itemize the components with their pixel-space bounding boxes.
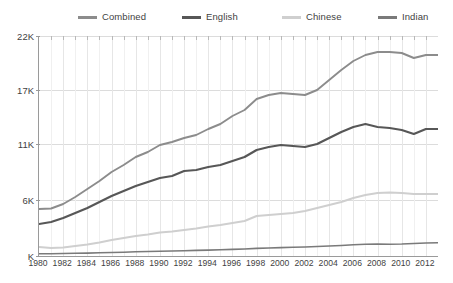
y-tick-mark: [36, 200, 40, 201]
legend-item-english[interactable]: English: [182, 9, 238, 25]
series-lines: [39, 36, 438, 256]
chart-legend: CombinedEnglishChineseIndian: [0, 9, 453, 25]
x-tick-label: 2000: [270, 258, 289, 268]
y-tick-label: 22K: [0, 31, 34, 42]
legend-item-indian[interactable]: Indian: [378, 9, 428, 25]
legend-label: Indian: [402, 9, 428, 25]
series-line-chinese: [39, 193, 438, 249]
x-tick-label: 2010: [391, 258, 410, 268]
legend-swatch-icon: [78, 16, 97, 19]
y-tick-label: 11K: [0, 139, 34, 150]
legend-label: Combined: [102, 9, 146, 25]
y-tick-mark: [36, 144, 40, 145]
x-tick-label: 1994: [198, 258, 217, 268]
x-tick-label: 1986: [101, 258, 120, 268]
legend-swatch-icon: [378, 16, 397, 19]
x-tick-label: 1984: [77, 258, 96, 268]
series-line-english: [39, 124, 438, 224]
line-chart: CombinedEnglishChineseIndian 22K17K11K6K…: [0, 0, 453, 283]
y-tick-mark: [36, 36, 40, 37]
series-line-indian: [39, 243, 438, 254]
x-tick-label: 2004: [319, 258, 338, 268]
x-tick-label: 2012: [415, 258, 434, 268]
legend-swatch-icon: [282, 16, 301, 19]
x-tick-label: 1990: [149, 258, 168, 268]
y-tick-mark: [36, 90, 40, 91]
x-tick-label: 2008: [367, 258, 386, 268]
series-line-combined: [39, 52, 438, 209]
y-tick-mark: [36, 256, 40, 257]
legend-swatch-icon: [182, 16, 201, 19]
x-tick-label: 1988: [125, 258, 144, 268]
legend-label: English: [206, 9, 238, 25]
x-tick-label: 1992: [174, 258, 193, 268]
x-axis: 1980198219841986198819901992199419961998…: [0, 258, 453, 278]
x-tick-label: 1980: [28, 258, 47, 268]
x-tick-label: 1982: [53, 258, 72, 268]
x-tick-label: 2006: [343, 258, 362, 268]
legend-item-combined[interactable]: Combined: [78, 9, 146, 25]
y-tick-label: 6K: [0, 195, 34, 206]
plot-area: [38, 36, 438, 257]
x-tick-label: 1996: [222, 258, 241, 268]
x-tick-label: 2002: [294, 258, 313, 268]
y-axis: 22K17K11K6KK: [0, 0, 34, 283]
legend-label: Chinese: [306, 9, 342, 25]
y-tick-label: 17K: [0, 85, 34, 96]
x-tick-label: 1998: [246, 258, 265, 268]
legend-item-chinese[interactable]: Chinese: [282, 9, 342, 25]
